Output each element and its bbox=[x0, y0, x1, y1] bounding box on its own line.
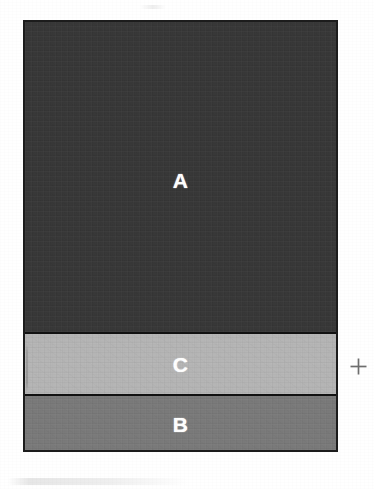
region-a: A bbox=[25, 22, 336, 334]
region-a-label: A bbox=[173, 170, 189, 191]
stacked-region-box: A C B bbox=[23, 20, 338, 452]
region-b: B bbox=[25, 396, 336, 450]
region-c-label: C bbox=[173, 354, 189, 375]
scan-artifact-bottom-band bbox=[8, 478, 188, 485]
region-c: C bbox=[25, 334, 336, 396]
region-b-label: B bbox=[173, 414, 189, 435]
figure-root: A C B bbox=[0, 0, 374, 489]
scan-artifact-top-fleck bbox=[140, 5, 166, 9]
plus-icon bbox=[350, 358, 367, 375]
